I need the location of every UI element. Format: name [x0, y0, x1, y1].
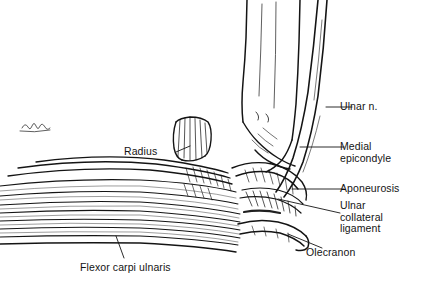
vessel-marks: [256, 112, 269, 122]
label-medial-epicondyle: Medial epicondyle: [340, 141, 391, 164]
leader-ulnar-collateral-ligament: [278, 199, 340, 213]
radius-striations: [178, 117, 207, 160]
humerus-shaft: [242, 0, 300, 140]
figure-canvas: Ulnar n. Medial epicondyle Aponeurosis U…: [0, 0, 421, 285]
aponeurosis: [232, 163, 307, 200]
medial-epicondyle: [243, 122, 295, 172]
label-flexor-carpi-ulnaris: Flexor carpi ulnaris: [80, 262, 171, 274]
olecranon: [238, 220, 309, 250]
label-radius: Radius: [124, 146, 157, 158]
ulnar-nerve-texture: [303, 20, 322, 172]
artist-signature: [20, 124, 50, 132]
label-ulnar-nerve: Ulnar n.: [340, 101, 378, 113]
label-ulnar-collateral-ligament: Ulnar collateral ligament: [340, 200, 383, 235]
label-olecranon: Olecranon: [306, 247, 355, 259]
fcu-fine-striations: [0, 186, 239, 242]
shaft-contour-lines: [259, 2, 276, 108]
fcu-lower-border: [0, 243, 236, 252]
label-aponeurosis: Aponeurosis: [340, 183, 399, 195]
ucl-deep-shadow: [244, 211, 280, 213]
leader-flexor-carpi-ulnaris: [116, 236, 124, 258]
